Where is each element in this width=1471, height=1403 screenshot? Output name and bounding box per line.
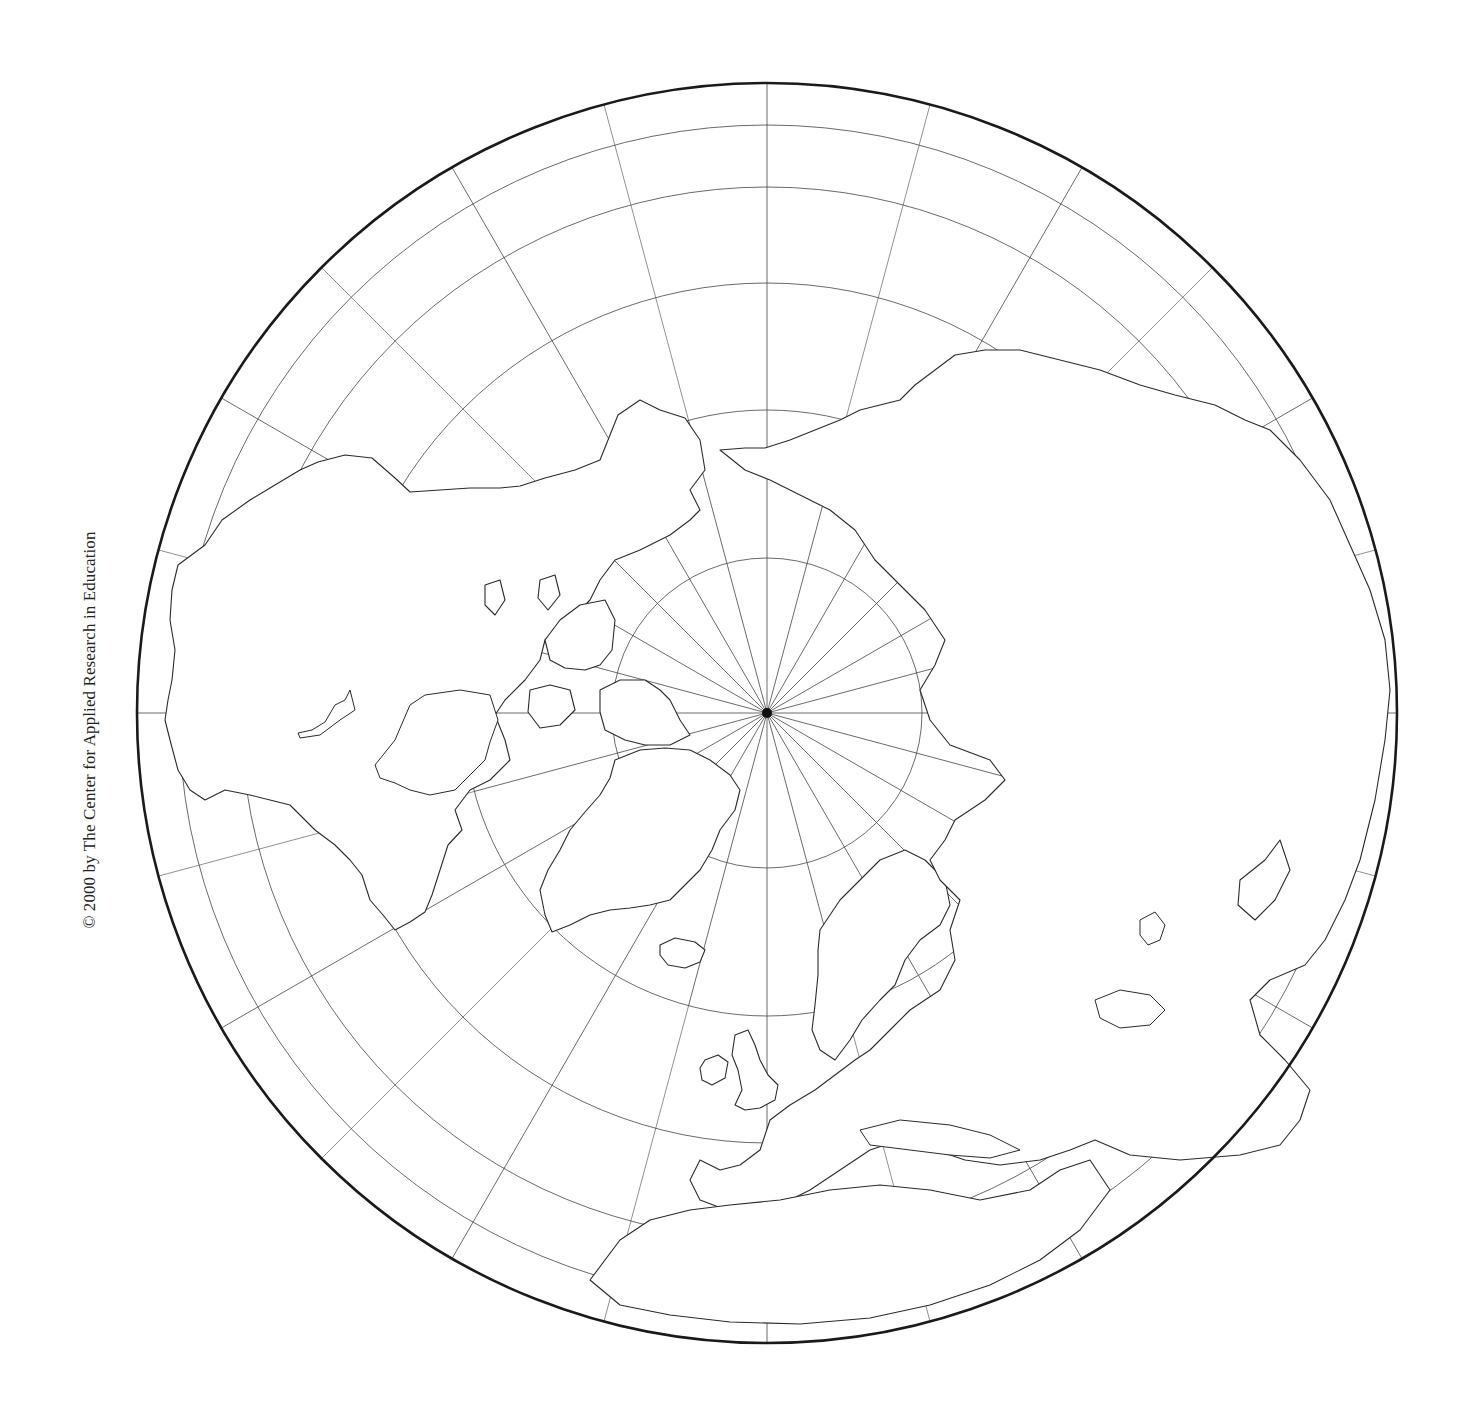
eurasia: [690, 350, 1390, 1215]
land-masses: [165, 350, 1390, 1324]
outer-meridian: [452, 975, 616, 1258]
iceland: [660, 938, 705, 968]
outer-meridian: [452, 167, 616, 450]
copyright-notice: © 2000 by The Center for Applied Researc…: [80, 531, 100, 928]
outer-meridian-secondary: [845, 104, 930, 420]
outer-meridian-secondary: [604, 104, 689, 420]
north-pole-marker: [762, 708, 772, 718]
polar-map: [0, 0, 1471, 1403]
ireland: [700, 1055, 728, 1085]
great-britain: [732, 1030, 778, 1110]
africa: [590, 1160, 1110, 1324]
outer-meridian-secondary: [322, 927, 553, 1158]
outer-meridian: [221, 865, 504, 1029]
greenland: [540, 748, 740, 932]
